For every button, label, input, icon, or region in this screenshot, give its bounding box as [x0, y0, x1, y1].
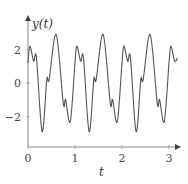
- y-ticks: −202: [5, 44, 30, 124]
- x-tick-label: 1: [72, 152, 79, 165]
- y-axis-label: y(t): [31, 17, 53, 31]
- y-tick-label: 0: [14, 77, 21, 90]
- data-series-y: [28, 34, 177, 132]
- x-ticks: 0123: [25, 145, 173, 165]
- x-axis-label: t: [99, 165, 104, 179]
- y-tick-label: −2: [5, 111, 21, 124]
- line-chart: 0123 −202 y(t) t: [0, 0, 188, 184]
- x-tick-label: 2: [119, 152, 126, 165]
- x-tick-label: 0: [25, 152, 32, 165]
- y-tick-label: 2: [14, 44, 21, 57]
- x-tick-label: 3: [166, 152, 173, 165]
